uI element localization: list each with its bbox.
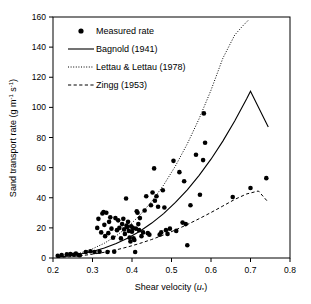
data-point: [161, 188, 166, 193]
data-point: [142, 208, 147, 213]
chart-legend: Measured rateBagnold (1941)Lettau & Lett…: [68, 26, 186, 90]
data-point: [182, 179, 187, 184]
x-tick-label: 0.8: [284, 265, 296, 275]
y-tick-label: 140: [32, 42, 46, 52]
data-point: [83, 250, 88, 255]
data-point: [133, 250, 138, 255]
y-tick-label: 120: [32, 72, 46, 82]
data-point: [159, 230, 164, 235]
data-point: [126, 220, 131, 225]
legend-label: Lettau & Lettau (1978): [96, 62, 186, 72]
data-point: [141, 230, 146, 235]
legend-marker-measured-rate: [78, 28, 83, 33]
data-point: [124, 196, 129, 201]
data-point: [136, 222, 141, 227]
data-point: [177, 170, 182, 175]
data-point: [165, 232, 170, 237]
y-tick-label: 20: [37, 223, 47, 233]
y-tick-label: 160: [32, 12, 46, 22]
data-point: [105, 250, 110, 255]
legend-label: Zingg (1953): [96, 80, 147, 90]
x-tick-label: 0.4: [126, 265, 138, 275]
data-point: [104, 211, 109, 216]
y-tick-label: 40: [37, 193, 47, 203]
data-point: [174, 229, 179, 234]
data-point: [171, 159, 176, 164]
y-axis-title: Sand transport rate (g m-1 s-1): [8, 79, 18, 197]
data-point: [106, 231, 111, 236]
data-point: [188, 203, 193, 208]
data-point: [201, 158, 206, 163]
data-point: [112, 249, 117, 254]
y-tick-label: 100: [32, 102, 46, 112]
chart-figure: 0.20.30.40.50.60.70.8 020406080100120140…: [0, 0, 311, 304]
data-point: [120, 222, 125, 227]
data-point: [152, 166, 157, 171]
data-point: [117, 226, 122, 231]
data-point: [95, 226, 100, 231]
x-tick-label: 0.7: [245, 265, 257, 275]
data-point: [92, 250, 97, 255]
data-point: [135, 211, 140, 216]
data-point: [88, 249, 93, 254]
data-point: [150, 190, 155, 195]
y-tick-label: 80: [37, 133, 47, 143]
data-point: [202, 111, 207, 116]
data-point: [109, 226, 114, 231]
legend-label: Measured rate: [96, 26, 154, 36]
x-axis-ticks: 0.20.30.40.50.60.70.8: [47, 258, 296, 275]
plot-frame: [53, 17, 290, 258]
data-point: [230, 195, 235, 200]
data-point: [154, 194, 159, 199]
data-point: [55, 253, 60, 258]
data-point: [119, 236, 124, 241]
y-tick-label: 0: [41, 253, 46, 263]
data-point: [121, 217, 126, 222]
data-point: [185, 243, 190, 248]
model-curves: [57, 20, 268, 258]
data-point: [78, 253, 83, 258]
scatter-plot: 0.20.30.40.50.60.70.8 020406080100120140…: [0, 0, 311, 304]
x-tick-label: 0.5: [166, 265, 178, 275]
data-point: [149, 203, 154, 208]
legend-label: Bagnold (1941): [96, 44, 158, 54]
data-point: [111, 235, 116, 240]
data-point: [198, 192, 203, 197]
data-point: [123, 232, 128, 237]
x-axis-title: Shear velocity (u*): [135, 282, 207, 293]
data-point: [147, 232, 152, 237]
data-point: [99, 230, 104, 235]
data-point: [156, 204, 161, 209]
data-point: [248, 186, 253, 191]
data-point: [264, 176, 269, 181]
data-point: [107, 220, 112, 225]
data-point: [183, 222, 188, 227]
curve-dashed: [57, 191, 268, 258]
x-tick-label: 0.2: [47, 265, 59, 275]
data-point: [102, 223, 107, 228]
y-axis-ticks: 020406080100120140160: [32, 12, 53, 263]
data-point: [194, 153, 199, 158]
data-point: [108, 215, 113, 220]
data-point: [59, 253, 64, 258]
data-point: [168, 226, 173, 231]
data-point: [97, 249, 102, 254]
data-point: [203, 140, 208, 145]
data-point: [96, 217, 101, 222]
data-point: [116, 218, 121, 223]
y-tick-label: 60: [37, 163, 47, 173]
data-point: [153, 198, 158, 203]
x-tick-label: 0.3: [87, 265, 99, 275]
data-point: [138, 216, 143, 221]
data-point: [162, 205, 167, 210]
data-point: [137, 228, 142, 233]
x-tick-label: 0.6: [205, 265, 217, 275]
data-point: [132, 238, 137, 243]
data-point: [144, 194, 149, 199]
